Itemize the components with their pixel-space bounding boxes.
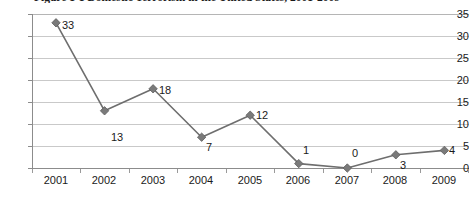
data-point-2008: [392, 151, 400, 159]
series-line: [56, 23, 444, 168]
data-point-2009: [440, 146, 448, 154]
point-label-2004: 7: [206, 142, 212, 153]
data-point-2007: [343, 164, 351, 172]
figure-container: Figure 1-1 Domestic Terrorism in the Uni…: [0, 0, 469, 199]
point-label-2003: 18: [159, 85, 171, 96]
series-markers: [52, 19, 449, 173]
point-label-2001: 33: [62, 20, 74, 31]
point-label-2002: 13: [111, 132, 123, 143]
point-label-2009: 4: [449, 145, 455, 156]
point-label-2006: 1: [303, 145, 309, 156]
data-point-2001: [52, 19, 60, 27]
point-label-2007: 0: [352, 148, 358, 159]
data-point-2002: [100, 107, 108, 115]
point-label-2005: 12: [256, 110, 268, 121]
point-label-2008: 3: [400, 160, 406, 171]
